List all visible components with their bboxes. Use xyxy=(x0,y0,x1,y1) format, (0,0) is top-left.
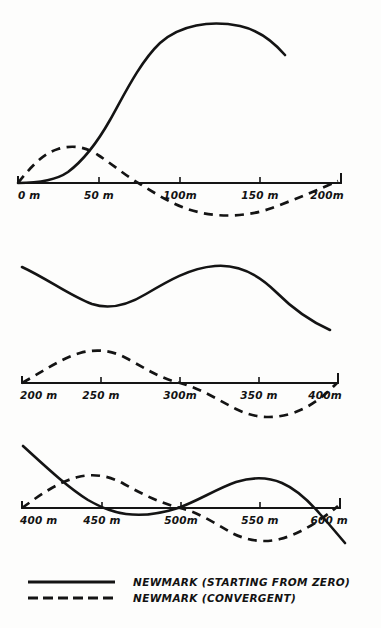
legend-solid-label: NEWMARK (STARTING FROM ZERO) xyxy=(133,576,350,588)
panel-2: 200 m 250 m 300m 350 m 400m xyxy=(20,266,342,417)
panel-1-label-150: 150 m xyxy=(241,189,279,201)
panel-3-label-400: 400 m xyxy=(19,514,58,526)
panel-1-curve-solid xyxy=(18,24,285,183)
newmark-figure: 0 m 50 m 100m 150 m 200m 200 m 250 m 300… xyxy=(0,0,381,628)
panel-3-label-600: 600 m xyxy=(310,514,348,526)
panel-1-label-200: 200m xyxy=(310,189,344,201)
panel-1-label-50: 50 m xyxy=(84,189,114,201)
panel-2-label-250: 250 m xyxy=(82,389,120,401)
panel-1: 0 m 50 m 100m 150 m 200m xyxy=(18,24,344,216)
panel-3-label-500: 500m xyxy=(164,514,198,526)
legend-entry-solid: NEWMARK (STARTING FROM ZERO) xyxy=(28,576,350,588)
panel-1-curve-dashed xyxy=(18,147,338,216)
panel-2-label-200: 200 m xyxy=(20,389,58,401)
panel-2-label-400: 400m xyxy=(307,389,342,401)
figure-canvas: 0 m 50 m 100m 150 m 200m 200 m 250 m 300… xyxy=(0,0,381,628)
legend: NEWMARK (STARTING FROM ZERO) NEWMARK (CO… xyxy=(28,576,350,604)
panel-2-label-350: 350 m xyxy=(240,389,278,401)
panel-3-label-550: 550 m xyxy=(241,514,279,526)
panel-3-label-450: 450 m xyxy=(82,514,121,526)
panel-2-label-300: 300m xyxy=(163,389,197,401)
panel-2-curve-solid xyxy=(22,266,330,330)
legend-dashed-label: NEWMARK (CONVERGENT) xyxy=(133,592,296,604)
panel-1-label-100: 100m xyxy=(163,189,197,201)
panel-3: 400 m 450 m 500m 550 m 600 m xyxy=(19,446,348,543)
panel-3-curve-solid xyxy=(23,446,345,543)
legend-entry-dashed: NEWMARK (CONVERGENT) xyxy=(28,592,296,604)
panel-1-label-0: 0 m xyxy=(18,189,41,201)
